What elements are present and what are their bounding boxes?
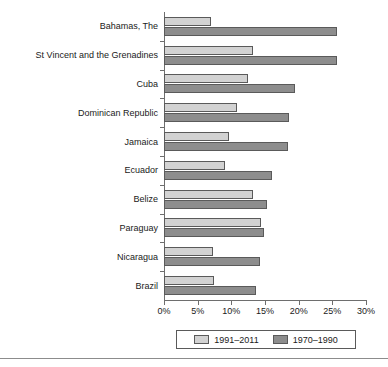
bar-recent	[164, 74, 248, 83]
bar-recent	[164, 132, 229, 141]
y-axis-tick	[160, 41, 164, 42]
x-axis-tick-label: 5%	[191, 306, 204, 317]
category-label: Nicaragua	[117, 252, 158, 262]
bar-group: Bahamas, The	[164, 12, 366, 41]
x-axis-tick-label: 0%	[157, 306, 170, 317]
bar-group: Cuba	[164, 70, 366, 99]
bar-group: Nicaragua	[164, 242, 366, 271]
legend-swatch-older-icon	[273, 335, 288, 344]
x-axis-tick-label: 10%	[222, 306, 240, 317]
bar-group: Ecuador	[164, 156, 366, 185]
bar-older	[164, 27, 337, 36]
bar-group: Jamaica	[164, 127, 366, 156]
bar-recent	[164, 17, 211, 26]
y-axis-tick	[160, 185, 164, 186]
category-label: Brazil	[135, 281, 158, 291]
bar-recent	[164, 161, 225, 170]
legend-label-older: 1970–1990	[293, 335, 338, 345]
y-axis-tick	[160, 127, 164, 128]
bar-recent	[164, 190, 253, 199]
bar-recent	[164, 218, 261, 227]
bar-group: Brazil	[164, 271, 366, 300]
bar-older	[164, 228, 264, 237]
bar-group: Belize	[164, 185, 366, 214]
bar-older	[164, 142, 288, 151]
y-axis-tick	[160, 98, 164, 99]
x-axis-tick	[366, 301, 367, 305]
x-axis-tick-label: 25%	[323, 306, 341, 317]
category-label: Ecuador	[124, 165, 158, 175]
legend-item-older[interactable]: 1970–1990	[273, 335, 338, 345]
x-axis-tick-label: 30%	[357, 306, 375, 317]
legend-swatch-recent-icon	[194, 335, 209, 344]
bar-recent	[164, 247, 213, 256]
bar-older	[164, 171, 272, 180]
y-axis-tick	[160, 271, 164, 272]
bar-older	[164, 257, 260, 266]
category-label: Belize	[133, 194, 158, 204]
y-axis-tick	[160, 70, 164, 71]
category-label: Dominican Republic	[78, 108, 158, 118]
footer-divider	[0, 358, 388, 359]
bar-recent	[164, 103, 237, 112]
legend-item-recent[interactable]: 1991–2011	[194, 335, 258, 345]
y-axis-tick	[160, 242, 164, 243]
plot-area: Bahamas, TheSt Vincent and the Grenadine…	[164, 12, 366, 300]
category-label: Paraguay	[119, 223, 158, 233]
category-label: Jamaica	[124, 137, 158, 147]
x-axis-tick-label: 20%	[290, 306, 308, 317]
x-axis-tick	[198, 301, 199, 305]
x-axis-tick	[332, 301, 333, 305]
bar-group: Paraguay	[164, 214, 366, 243]
x-axis-tick	[265, 301, 266, 305]
bar-older	[164, 56, 337, 65]
y-axis-tick	[160, 156, 164, 157]
x-axis-tick	[231, 301, 232, 305]
bar-group: Dominican Republic	[164, 98, 366, 127]
x-axis-tick-label: 15%	[256, 306, 274, 317]
x-axis-tick	[164, 301, 165, 305]
bar-chart: Bahamas, TheSt Vincent and the Grenadine…	[0, 0, 388, 367]
category-label: St Vincent and the Grenadines	[36, 50, 158, 60]
legend-label-recent: 1991–2011	[214, 335, 258, 345]
category-label: Bahamas, The	[100, 21, 158, 31]
category-label: Cuba	[136, 79, 158, 89]
bar-older	[164, 286, 256, 295]
bar-recent	[164, 276, 214, 285]
bar-older	[164, 84, 295, 93]
chart-legend: 1991–2011 1970–1990	[176, 330, 356, 349]
bar-older	[164, 200, 267, 209]
x-axis-tick	[299, 301, 300, 305]
y-axis-tick	[160, 214, 164, 215]
bar-older	[164, 113, 289, 122]
bar-group: St Vincent and the Grenadines	[164, 41, 366, 70]
bar-recent	[164, 46, 253, 55]
